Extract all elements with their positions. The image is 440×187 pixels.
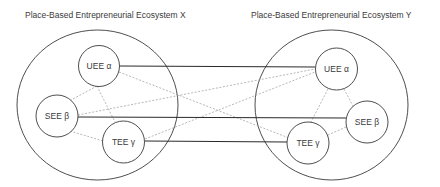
link-x-see-tee (70, 131, 103, 141)
node-x-tee-label: TEE γ (112, 137, 136, 147)
link-tee-solid (145, 141, 287, 142)
node-x-see-label: SEE β (45, 111, 69, 121)
ecosystem-diagram: Place-Based Entrepreneurial Ecosystem X … (0, 0, 440, 187)
node-y-tee: TEE γ (287, 122, 329, 164)
link-uee-solid (120, 66, 315, 67)
node-y-see: SEE β (346, 101, 388, 143)
node-x-uee-label: UEE α (87, 61, 112, 71)
node-x-see: SEE β (36, 95, 78, 137)
link-xtee-yuee (145, 72, 315, 139)
link-xuee-ytee (119, 72, 289, 138)
node-x-uee: UEE α (79, 46, 120, 87)
ecosystem-y-title: Place-Based Entrepreneurial Ecosystem Y (251, 10, 411, 20)
node-x-tee: TEE γ (103, 121, 145, 163)
link-y-see-tee (328, 127, 346, 135)
node-y-uee: UEE α (316, 48, 358, 90)
diagram-canvas: UEE α SEE β TEE γ UEE α SEE β TEE γ (0, 0, 440, 187)
node-y-tee-label: TEE γ (296, 138, 320, 148)
link-y-uee-tee (311, 89, 328, 122)
ecosystem-x-title: Place-Based Entrepreneurial Ecosystem X (25, 10, 186, 20)
link-y-uee-see (344, 89, 353, 106)
node-y-uee-label: UEE α (324, 64, 349, 74)
node-y-see-label: SEE β (355, 117, 379, 127)
link-see-solid (78, 117, 346, 118)
link-x-uee-see (71, 86, 97, 100)
